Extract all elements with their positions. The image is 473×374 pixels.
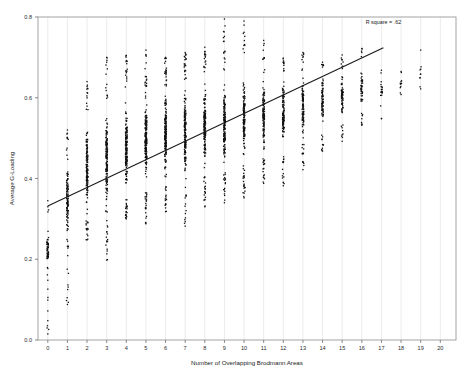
x-tick-label-18: 18 — [398, 345, 404, 351]
data-point — [106, 231, 107, 232]
data-point — [282, 88, 283, 89]
data-point — [283, 102, 284, 103]
data-point — [66, 155, 67, 156]
data-point — [243, 188, 244, 189]
data-point — [204, 177, 205, 178]
data-point — [184, 129, 185, 130]
x-tick-label-7: 7 — [184, 345, 187, 351]
data-point — [87, 170, 88, 171]
data-point — [224, 137, 225, 138]
data-point — [106, 142, 107, 143]
data-point — [244, 45, 245, 46]
data-point — [263, 183, 264, 184]
x-tick-label-15: 15 — [339, 345, 345, 351]
data-point — [342, 111, 343, 112]
data-point — [144, 84, 145, 85]
data-point — [184, 170, 185, 171]
data-point — [146, 62, 147, 63]
data-point — [223, 153, 224, 154]
data-point — [263, 45, 264, 46]
data-point — [283, 110, 284, 111]
data-point — [67, 133, 68, 134]
data-point — [283, 62, 284, 63]
data-point — [342, 87, 343, 88]
data-point — [126, 78, 127, 79]
data-point — [146, 56, 147, 57]
data-point — [262, 59, 263, 60]
data-point — [283, 156, 284, 157]
data-point — [224, 116, 225, 117]
data-point — [125, 113, 126, 114]
data-point — [185, 163, 186, 164]
data-point — [224, 144, 225, 145]
data-point — [166, 199, 167, 200]
data-point — [380, 84, 381, 85]
data-point — [48, 245, 49, 246]
data-point — [166, 118, 167, 119]
data-point — [184, 113, 185, 114]
data-point — [184, 63, 185, 64]
data-point — [184, 146, 185, 147]
data-point — [125, 199, 126, 200]
data-point — [125, 162, 126, 163]
data-point — [205, 134, 206, 135]
y-tick-label-0.0: 0.0 — [24, 337, 32, 343]
data-point — [87, 166, 88, 167]
data-point — [244, 40, 245, 41]
data-point — [145, 121, 146, 122]
data-point — [86, 106, 87, 107]
data-point — [204, 137, 205, 138]
data-point — [244, 177, 245, 178]
data-point — [86, 178, 87, 179]
data-point — [68, 226, 69, 227]
data-point — [263, 129, 264, 130]
data-point — [47, 274, 48, 275]
data-point — [66, 300, 67, 301]
y-axis-title: Average G-Loading — [8, 151, 15, 205]
data-point — [380, 105, 381, 106]
data-point — [342, 137, 343, 138]
data-point — [125, 133, 126, 134]
data-point — [146, 132, 147, 133]
data-point — [205, 182, 206, 183]
data-point — [243, 100, 244, 101]
data-point — [67, 269, 68, 270]
data-point — [86, 224, 87, 225]
data-point — [205, 64, 206, 65]
data-point — [145, 95, 146, 96]
data-point — [105, 210, 106, 211]
data-point — [144, 196, 145, 197]
data-point — [323, 80, 324, 81]
data-point — [223, 129, 224, 130]
data-point — [165, 72, 166, 73]
data-point — [166, 112, 167, 113]
data-point — [106, 135, 107, 136]
data-point — [224, 177, 225, 178]
data-point — [381, 70, 382, 71]
data-point — [126, 63, 127, 64]
data-point — [303, 121, 304, 122]
data-point — [184, 223, 185, 224]
data-point — [146, 117, 147, 118]
data-point — [106, 144, 107, 145]
data-point — [165, 207, 166, 208]
data-point — [322, 88, 323, 89]
data-point — [282, 175, 283, 176]
data-point — [322, 120, 323, 121]
data-point — [302, 117, 303, 118]
data-point — [146, 176, 147, 177]
data-point — [263, 89, 264, 90]
data-point — [322, 148, 323, 149]
data-point — [165, 111, 166, 112]
data-point — [341, 101, 342, 102]
data-point — [204, 141, 205, 142]
data-point — [204, 54, 205, 55]
data-point — [420, 73, 421, 74]
data-point — [262, 158, 263, 159]
data-point — [342, 59, 343, 60]
data-point — [243, 184, 244, 185]
data-point — [224, 97, 225, 98]
data-point — [204, 146, 205, 147]
data-point — [87, 181, 88, 182]
data-point — [144, 82, 145, 83]
